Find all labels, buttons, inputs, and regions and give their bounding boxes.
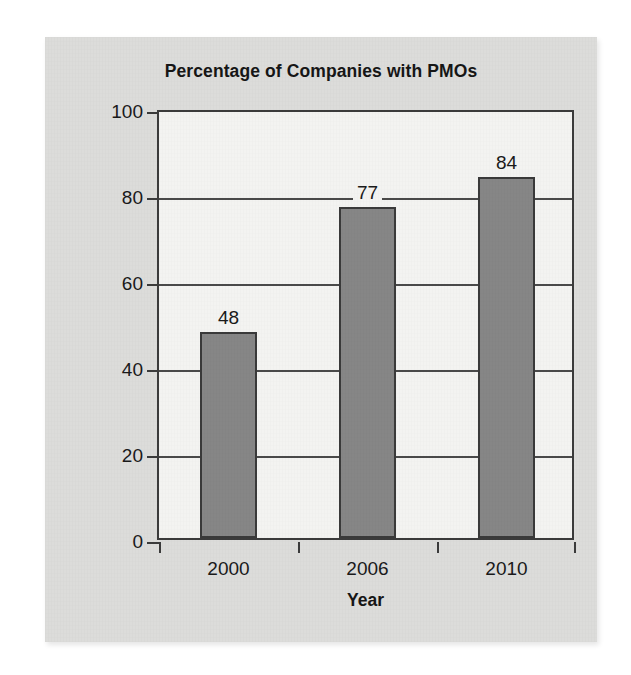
bar-value-text: 84 (492, 152, 521, 174)
y-axis-tick-100 (147, 112, 159, 114)
figure-panel: Percentage of Companies with PMOs Percen… (45, 37, 597, 642)
x-axis-title: Year (157, 590, 574, 611)
y-axis-title: Percentage (65, 0, 87, 132)
y-axis-tick-60 (147, 284, 159, 286)
bar-value-label-2006: 77 (328, 182, 408, 204)
y-axis-tick-40 (147, 370, 159, 372)
y-axis-label-40: 40 (122, 359, 143, 381)
bar-2010 (478, 177, 535, 538)
bar-2006 (339, 207, 396, 538)
x-axis-edge-tick-right (574, 542, 576, 553)
y-axis-label-60: 60 (122, 273, 143, 295)
scanned-page: Percentage of Companies with PMOs Percen… (0, 0, 631, 675)
bar-value-label-2010: 84 (467, 152, 547, 174)
bar-value-text: 77 (353, 182, 382, 204)
x-axis-tick-1 (298, 542, 300, 553)
y-axis-tick-80 (147, 198, 159, 200)
x-axis-label-2000: 2000 (179, 558, 279, 580)
bar-value-label-2000: 48 (189, 307, 269, 329)
y-axis-label-100: 100 (111, 101, 143, 123)
plot-area: 020406080100482000772006842010 (157, 110, 574, 540)
y-axis-label-20: 20 (122, 445, 143, 467)
bar-2000 (200, 332, 257, 538)
bar-value-text: 48 (214, 307, 243, 329)
y-axis-label-80: 80 (122, 187, 143, 209)
x-axis-label-2010: 2010 (457, 558, 557, 580)
x-axis-label-2006: 2006 (318, 558, 418, 580)
chart-title: Percentage of Companies with PMOs (45, 61, 597, 82)
y-axis-tick-20 (147, 456, 159, 458)
x-axis-tick-2 (437, 542, 439, 553)
y-axis-tick-0 (147, 542, 159, 544)
y-axis-label-0: 0 (132, 531, 143, 553)
y-axis-title-label: Percentage (65, 0, 87, 132)
x-axis-edge-tick-left (159, 542, 161, 553)
